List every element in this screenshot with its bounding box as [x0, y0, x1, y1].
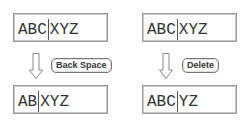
text-before-caret: AB	[18, 93, 37, 111]
text-caret	[177, 19, 178, 40]
text-caret	[177, 91, 178, 112]
delete-example: ABCXYZ Delete ABCYZ	[124, 0, 247, 125]
down-arrow-icon	[159, 53, 173, 79]
text-after-caret: XYZ	[179, 21, 208, 39]
text-after-caret: YZ	[179, 93, 198, 111]
text-before-caret: ABC	[18, 21, 47, 39]
text-before-caret: ABC	[147, 93, 176, 111]
text-before-caret: ABC	[147, 21, 176, 39]
after-textbox: ABCYZ	[142, 85, 237, 114]
text-caret	[48, 19, 49, 40]
before-textbox: ABCXYZ	[13, 13, 108, 42]
after-textbox: ABXYZ	[13, 85, 108, 114]
text-after-caret: XYZ	[50, 21, 79, 39]
text-after-caret: XYZ	[40, 93, 69, 111]
delete-key: Delete	[182, 58, 219, 73]
down-arrow-icon	[29, 53, 43, 79]
backspace-example: ABCXYZ Back Space ABXYZ	[0, 0, 123, 125]
text-caret	[38, 91, 39, 112]
before-textbox: ABCXYZ	[142, 13, 237, 42]
backspace-key: Back Space	[51, 58, 112, 73]
